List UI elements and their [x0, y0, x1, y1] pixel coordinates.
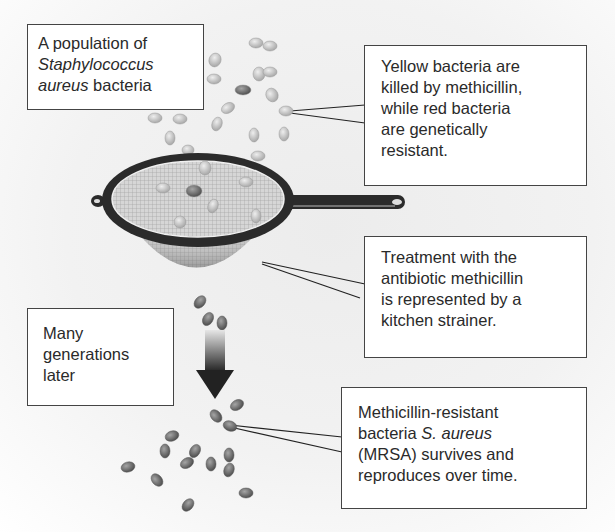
mrsa-label: Methicillin-resistant bacteria S. aureus… — [341, 387, 587, 509]
resistant-bacteria — [192, 293, 227, 330]
treatment-label: Treatment with the antibiotic methicilli… — [364, 236, 587, 358]
mrsa-population — [120, 397, 253, 513]
down-arrow-icon — [196, 330, 234, 399]
strainer-icon — [91, 153, 405, 268]
population-label: A population of Staphylococcus aureus ba… — [27, 24, 204, 110]
generations-label: Many generations later — [27, 308, 174, 406]
killed-label: Yellow bacteria are killed by methicilli… — [364, 45, 587, 186]
